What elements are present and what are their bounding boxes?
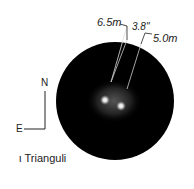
secondary-magnitude-label: 5.0m (153, 33, 177, 44)
compass-east-label: E (16, 124, 23, 134)
compass-north-label: N (41, 78, 48, 88)
primary-magnitude-label: 6.5m (97, 17, 121, 28)
star-name-label: ι Trianguli (19, 153, 66, 164)
star-primary (100, 95, 110, 105)
star-secondary (116, 101, 126, 111)
eyepiece-view: 6.5m 3.8" 5.0m N E ι Trianguli (0, 0, 194, 189)
separation-label: 3.8" (132, 22, 149, 32)
